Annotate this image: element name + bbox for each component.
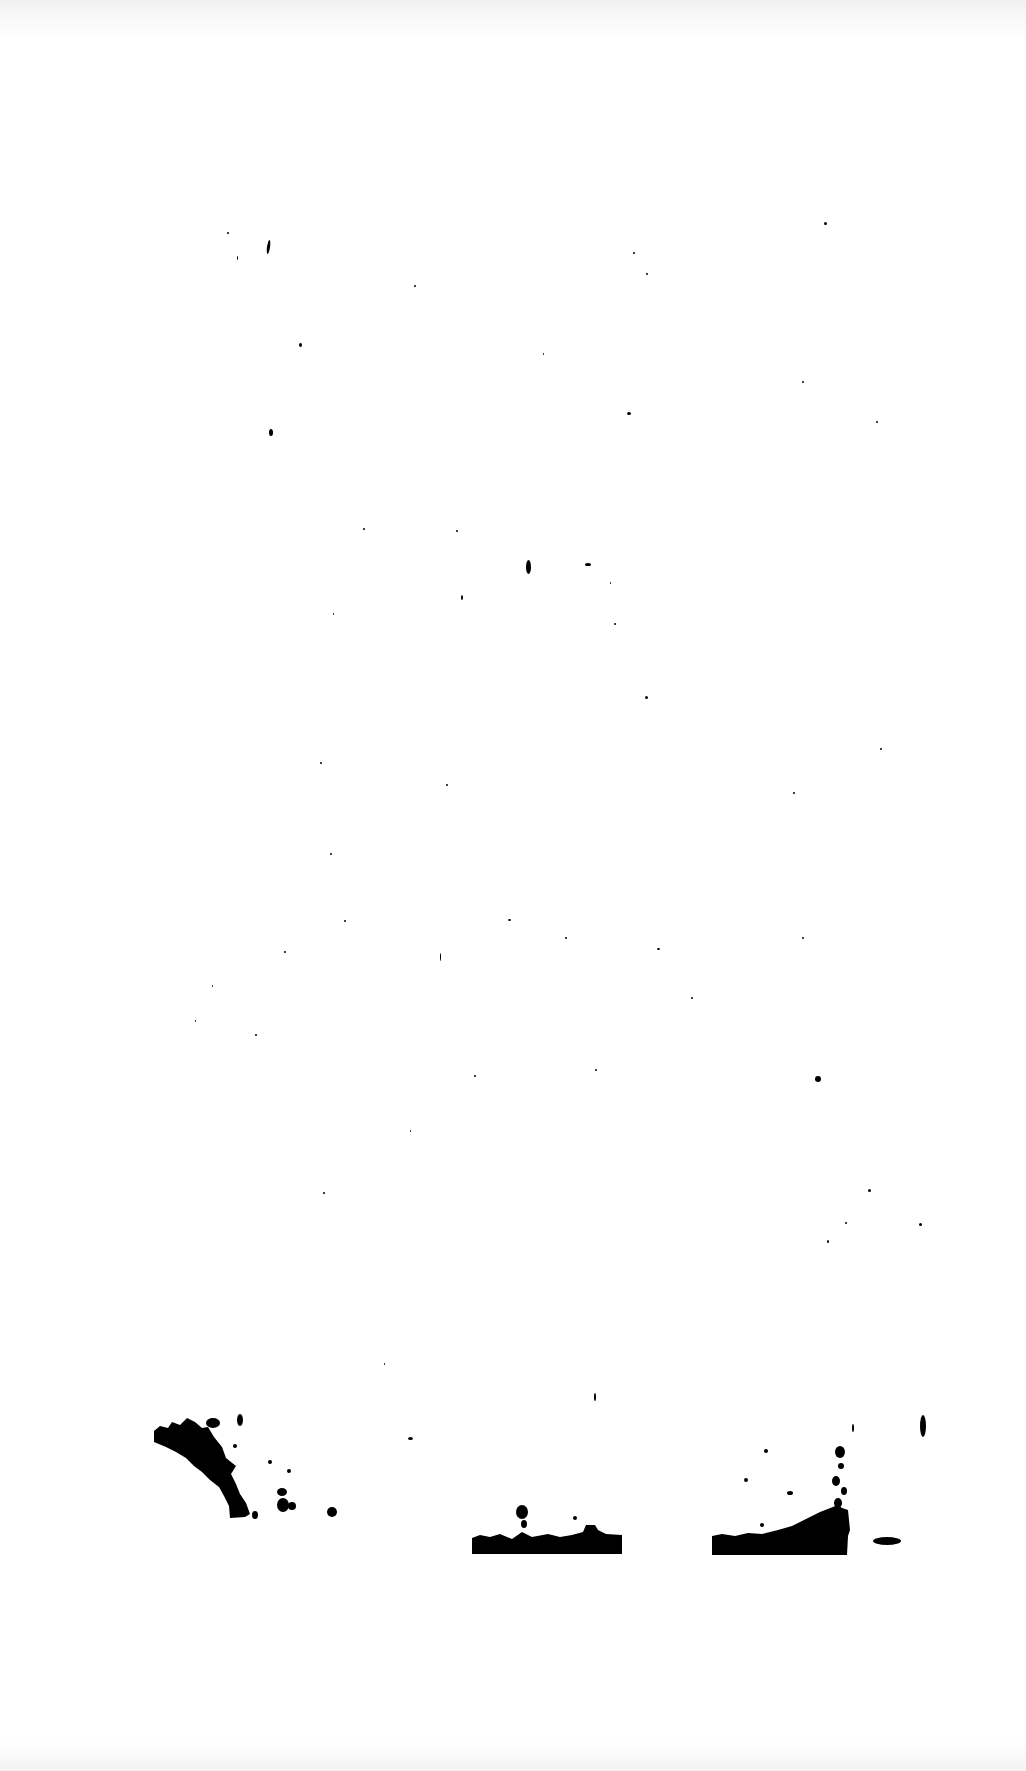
- ink-blot-right: [712, 1424, 901, 1555]
- ink-blot-middle: [472, 1505, 622, 1554]
- ink-blots: [0, 0, 1026, 1771]
- scan-edge-bottom: [0, 1741, 1026, 1771]
- scanned-page: [0, 0, 1026, 1771]
- ink-blot-left: [154, 1414, 337, 1519]
